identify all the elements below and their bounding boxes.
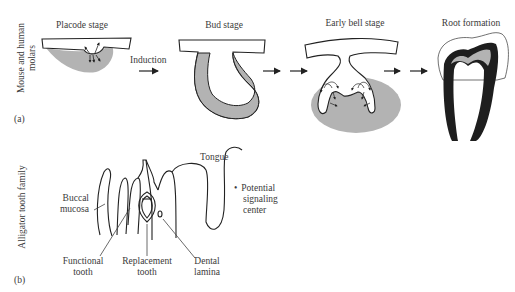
replacement-line2: tooth bbox=[116, 267, 178, 278]
legend-line3: center bbox=[234, 205, 278, 216]
panel-a-letter: (a) bbox=[14, 114, 25, 125]
legend-line2: signaling bbox=[234, 194, 278, 205]
placode-stage-drawing bbox=[42, 38, 131, 73]
panel-a-row-label: Mouse and human molars bbox=[16, 13, 38, 103]
buccal-line2: mucosa bbox=[53, 204, 89, 215]
diagram-canvas bbox=[0, 0, 515, 292]
signaling-center-bullet-icon: • bbox=[234, 183, 237, 193]
placode-stage-label: Placode stage bbox=[52, 20, 112, 31]
leader-lines bbox=[94, 204, 195, 258]
dental-line1: Dental bbox=[187, 256, 227, 267]
dental-lamina-label: Dental lamina bbox=[187, 256, 227, 278]
root-formation-label: Root formation bbox=[432, 18, 510, 29]
replacement-tooth-label: Replacement tooth bbox=[116, 256, 178, 278]
early-bell-stage-label: Early bell stage bbox=[320, 18, 390, 29]
legend-line1: Potential bbox=[241, 183, 275, 193]
buccal-line1: Buccal bbox=[53, 193, 89, 204]
signaling-center-legend: •Potential signaling center bbox=[234, 183, 278, 216]
induction-label: Induction bbox=[130, 55, 166, 66]
early-bell-stage-drawing bbox=[305, 38, 401, 133]
functional-line2: tooth bbox=[58, 267, 108, 278]
dental-line2: lamina bbox=[187, 267, 227, 278]
buccal-mucosa-label: Buccal mucosa bbox=[53, 193, 89, 215]
bud-stage-drawing bbox=[179, 40, 265, 119]
row-label-line1: Mouse and human bbox=[16, 13, 27, 103]
panel-b-letter: (b) bbox=[14, 275, 25, 286]
bud-stage-label: Bud stage bbox=[199, 20, 249, 31]
row-label-line2: molars bbox=[27, 13, 38, 103]
panel-b-row-label: Alligator tooth family bbox=[17, 152, 28, 262]
tongue-label: Tongue bbox=[200, 152, 228, 163]
replacement-line1: Replacement bbox=[116, 256, 178, 267]
functional-tooth-label: Functional tooth bbox=[58, 256, 108, 278]
root-formation-drawing bbox=[438, 33, 508, 141]
functional-line1: Functional bbox=[58, 256, 108, 267]
